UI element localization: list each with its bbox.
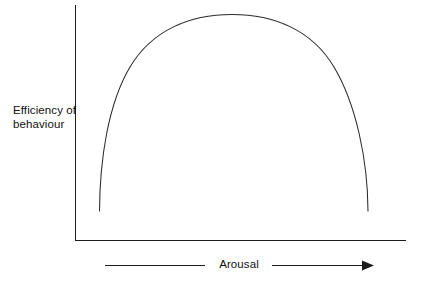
x-axis-label: Arousal [208, 258, 270, 272]
y-axis-label: Efficiency of behaviour [13, 104, 85, 131]
inverted-u-curve [100, 15, 369, 212]
arousal-performance-figure: Efficiency of behaviour Arousal [0, 0, 437, 281]
arrow-right-icon [362, 261, 374, 271]
figure-canvas [0, 0, 437, 281]
